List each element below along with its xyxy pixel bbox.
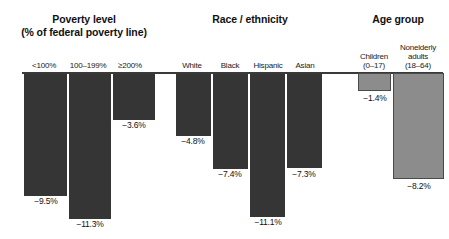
- value-label-age-nonelderly: −8.2%: [391, 181, 447, 191]
- category-label-age-children: Children (0–17): [352, 52, 396, 70]
- category-label-poverty-under100: <100%: [22, 61, 66, 70]
- group-title-poverty: Poverty level (% of federal poverty line…: [4, 13, 164, 38]
- category-label-age-nonelderly: Nonelderly adults (18–64): [392, 43, 444, 70]
- value-label-race-asian: −7.3%: [276, 169, 332, 179]
- category-label-poverty-200plus: ≥200%: [110, 61, 150, 70]
- group-title-age: Age group: [350, 13, 446, 26]
- group-title-poverty-line1: Poverty level: [4, 13, 164, 26]
- category-label-age-nonelderly-line3: (18–64): [392, 61, 444, 70]
- bar-race-hispanic: [250, 74, 285, 217]
- bar-race-black: [213, 74, 248, 169]
- value-label-race-white: −4.8%: [165, 136, 221, 146]
- category-label-age-children-line1: Children: [352, 52, 396, 61]
- bar-age-nonelderly: [393, 73, 444, 179]
- bar-race-asian: [287, 74, 322, 168]
- value-label-poverty-under100: −9.5%: [16, 196, 76, 206]
- value-label-poverty-100-199: −11.3%: [59, 219, 121, 229]
- category-label-race-black: Black: [210, 61, 250, 70]
- bar-race-white: [176, 74, 211, 136]
- bar-age-children: [358, 73, 391, 91]
- category-label-age-nonelderly-line1: Nonelderly: [392, 43, 444, 52]
- group-title-race-line1: Race / ethnicity: [185, 13, 315, 26]
- value-label-poverty-200plus: −3.6%: [106, 120, 162, 130]
- value-label-race-hispanic: −11.1%: [238, 217, 298, 227]
- group-title-poverty-line2: (% of federal poverty line): [4, 26, 164, 39]
- bar-poverty-under100: [24, 74, 67, 196]
- group-title-race: Race / ethnicity: [185, 13, 315, 26]
- category-label-age-children-line2: (0–17): [352, 61, 396, 70]
- value-label-age-children: −1.4%: [347, 93, 403, 103]
- category-label-poverty-100-199: 100–199%: [64, 61, 112, 70]
- value-label-race-black: −7.4%: [202, 169, 258, 179]
- group-title-age-line1: Age group: [350, 13, 446, 26]
- bar-poverty-200plus: [113, 74, 155, 120]
- category-label-age-nonelderly-line2: adults: [392, 52, 444, 61]
- bar-chart: Poverty level (% of federal poverty line…: [0, 0, 449, 239]
- category-label-race-white: White: [172, 61, 212, 70]
- category-label-race-asian: Asian: [285, 61, 325, 70]
